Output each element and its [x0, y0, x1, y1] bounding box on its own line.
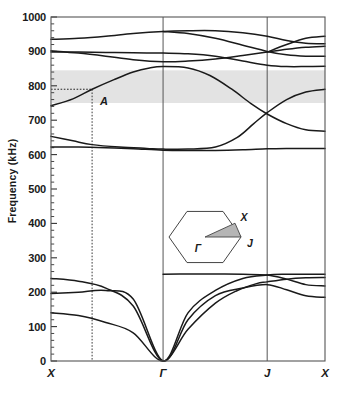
band-gap-rect: [52, 70, 325, 103]
band-gap-shading: [52, 70, 325, 103]
band-curve-band-4-flat-250: [163, 274, 325, 286]
brillouin-zone-inset: [169, 211, 241, 262]
band-curve-band-11-top-crossing: [163, 31, 325, 56]
band-structure-plot: [0, 0, 340, 397]
phononic-band-structure-figure: Frequency (kHz) 010020030040050060070080…: [0, 0, 340, 397]
axis-ticks: [51, 17, 57, 361]
annotation-guide-lines: [51, 89, 92, 361]
symmetry-gridlines: [163, 17, 267, 361]
band-curve-band-10-upper-935: [51, 31, 325, 44]
